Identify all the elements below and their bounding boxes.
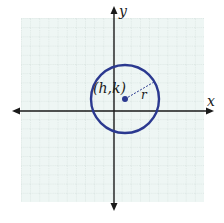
center-label: (h,k): [93, 80, 126, 96]
grid: [21, 18, 204, 202]
y-axis-up-arrow-icon: [111, 6, 118, 14]
y-axis-down-arrow-icon: [111, 203, 118, 211]
coordinate-plane-diagram: x y (h,k) r: [0, 0, 224, 223]
x-axis-left-arrow-icon: [12, 108, 20, 115]
center-point: [122, 96, 128, 102]
y-axis-label: y: [118, 3, 128, 19]
x-axis-label: x: [207, 93, 215, 109]
